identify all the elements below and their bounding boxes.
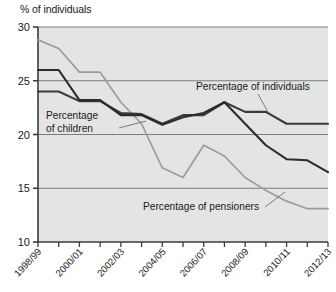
x-tick-label-2000/01: 2000/01 <box>53 246 85 279</box>
x-tick-label-2012/13: 2012/13 <box>302 246 334 279</box>
annotation-children-label-line2: of children <box>46 123 93 134</box>
x-tick-label-1998/99: 1998/99 <box>12 246 44 279</box>
y-tick-label-25: 25 <box>18 75 30 87</box>
annotation-individuals-label: Percentage of individuals <box>196 81 310 92</box>
x-tick-label-2002/03: 2002/03 <box>95 246 127 279</box>
y-tick-labels: 1015202530 <box>18 21 30 248</box>
x-tick-label-2010/11: 2010/11 <box>261 246 292 278</box>
x-tick-label-2004/05: 2004/05 <box>136 246 168 279</box>
line-chart: 1015202530 1998/992000/012002/032004/052… <box>0 0 336 292</box>
chart-container: % of individuals 1015202530 1998/992000/… <box>0 0 336 292</box>
x-tick-labels: 1998/992000/012002/032004/052006/072008/… <box>12 246 334 279</box>
y-tick-label-10: 10 <box>18 236 30 248</box>
annotation-children-label-line1: Percentage <box>46 110 98 121</box>
x-tick-label-2006/07: 2006/07 <box>177 246 209 279</box>
x-tick-label-2008/09: 2008/09 <box>219 246 251 279</box>
annotation-pensioners-label: Percentage of pensioners <box>143 201 259 212</box>
y-tick-label-15: 15 <box>18 182 30 194</box>
y-tick-label-20: 20 <box>18 129 30 141</box>
y-tick-label-30: 30 <box>18 21 30 33</box>
